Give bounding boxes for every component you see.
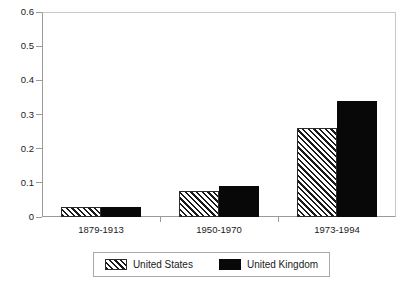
- x-axis-tick: [160, 217, 161, 222]
- legend-label-united-kingdom: United Kingdom: [247, 259, 318, 270]
- bar-united-states-1879-1913: [61, 207, 101, 217]
- x-axis-label: 1879-1913: [51, 224, 151, 235]
- y-axis-tick: [36, 114, 42, 115]
- y-axis-label: 0.1: [0, 178, 34, 188]
- x-axis-label: 1950-1970: [169, 224, 269, 235]
- y-axis-tick: [36, 12, 42, 13]
- y-axis-label: 0.4: [0, 75, 34, 85]
- bar-united-kingdom-1950-1970: [219, 186, 259, 217]
- y-axis-label: 0: [0, 212, 34, 222]
- bar-united-states-1950-1970: [179, 191, 219, 217]
- y-axis-tick: [36, 217, 42, 218]
- bar-united-states-1973-1994: [297, 128, 337, 217]
- y-axis-label: 0.3: [0, 110, 34, 120]
- x-axis-tick: [278, 217, 279, 222]
- bar-united-kingdom-1973-1994: [337, 101, 377, 217]
- legend: United States United Kingdom: [93, 252, 330, 277]
- legend-swatch-solid-icon: [219, 259, 241, 270]
- y-axis-tick: [36, 182, 42, 183]
- bar-united-kingdom-1879-1913: [101, 207, 141, 217]
- y-axis-label: 0.6: [0, 7, 34, 17]
- x-axis-label: 1973-1994: [287, 224, 387, 235]
- y-axis-tick: [36, 148, 42, 149]
- y-axis-label: 0.5: [0, 41, 34, 51]
- legend-entry-united-kingdom: United Kingdom: [219, 259, 318, 270]
- y-axis-label: 0.2: [0, 144, 34, 154]
- y-axis-tick: [36, 46, 42, 47]
- legend-entry-united-states: United States: [105, 259, 193, 270]
- legend-label-united-states: United States: [133, 259, 193, 270]
- legend-swatch-hatch-icon: [105, 259, 127, 270]
- bar-chart: 00.10.20.30.40.50.6 1879-19131950-197019…: [0, 0, 414, 291]
- y-axis-tick: [36, 80, 42, 81]
